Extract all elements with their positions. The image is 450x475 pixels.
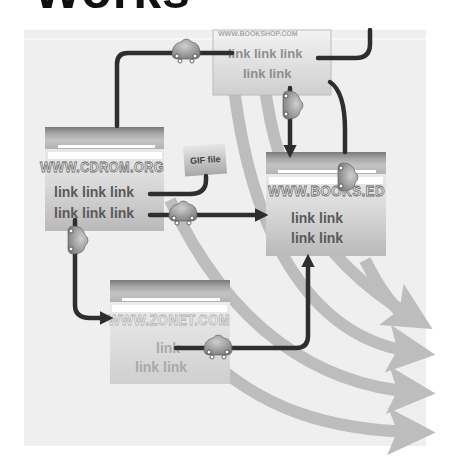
page-zonet-url: WWW.ZONET.COM [108,311,230,328]
page-cdrom-line-2[interactable]: link link link [54,205,134,221]
page-top-line-1[interactable]: link link link [228,46,303,61]
page-cdrom[interactable]: WWW.CDROM.ORG link link link link link l… [40,127,164,231]
page-zonet-line-2[interactable]: link link [135,359,187,375]
page-books[interactable]: WWW.BOOKS.ED link link link link [266,152,386,256]
page-top-url: WWW.BOOKSHOP.COM [218,30,298,37]
page-books-line-1[interactable]: link link [291,210,343,226]
page-books-line-2[interactable]: link link [291,230,343,246]
page-top[interactable]: WWW.BOOKSHOP.COM link link link link lin… [213,30,331,95]
gif-file-label: GIF file [190,154,221,166]
page-cdrom-url: WWW.CDROM.ORG [40,158,164,175]
web-links-diagram: WWW.BOOKSHOP.COM link link link link lin… [0,0,450,475]
page-zonet[interactable]: WWW.ZONET.COM link link link [108,280,230,384]
page-top-line-2[interactable]: link link [243,66,292,81]
gif-file-box[interactable]: GIF file [183,144,227,177]
page-books-url: WWW.BOOKS.ED [268,182,385,199]
page-cdrom-line-1[interactable]: link link link [54,184,134,200]
